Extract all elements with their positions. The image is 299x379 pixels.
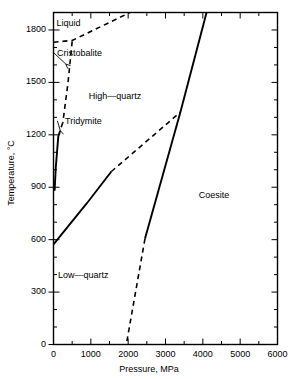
plot-frame [54, 13, 278, 345]
x-tick-label: 6000 [253, 350, 299, 359]
phase-diagram-figure: 0300600900120015001800 01000200030004000… [0, 0, 298, 379]
y-tick-label: 1800 [8, 25, 46, 34]
y-tick-label: 1500 [8, 77, 46, 86]
y-axis-title: Temperature, °C [6, 128, 16, 218]
y-tick-label: 300 [8, 287, 46, 296]
phase-label-tridymite: Tridymite [65, 116, 102, 126]
phase-label-coesite: Coesite [199, 190, 230, 200]
phase-label-high-quartz: High—quartz [89, 91, 142, 101]
x-axis-title: Pressure, MPa [0, 364, 298, 374]
y-tick-label: 600 [8, 235, 46, 244]
y-tick-label: 0 [8, 340, 46, 349]
phase-label-low-quartz: Low—quartz [58, 270, 109, 280]
phase-label-liquid: Liquid [56, 18, 80, 28]
phase-label-cristobalite: Cristobalite [57, 48, 102, 58]
